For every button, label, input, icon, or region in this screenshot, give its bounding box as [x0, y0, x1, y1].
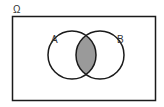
universe-label: Ω [13, 4, 21, 15]
set-b-label: B [117, 34, 124, 45]
venn-diagram: Ω A B [0, 0, 164, 107]
set-a-label: A [51, 34, 58, 45]
